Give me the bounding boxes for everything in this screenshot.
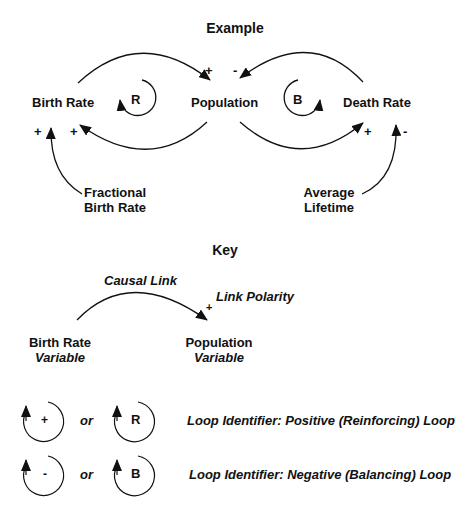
- fractional-line1: Fractional: [80, 185, 150, 200]
- lifetime-line1: Average: [298, 185, 360, 200]
- loop-identifier-minus-symbol: -: [43, 467, 47, 482]
- variable-fractional-birth-rate: Fractional Birth Rate: [80, 185, 150, 215]
- key-link-polarity-label: Link Polarity: [216, 289, 294, 304]
- loop-label-r: R: [131, 92, 140, 107]
- lifetime-line2: Lifetime: [298, 200, 360, 215]
- link-population-to-birth: [80, 122, 207, 149]
- loop-identifier-or-1: or: [80, 413, 93, 428]
- fractional-line2: Birth Rate: [80, 200, 150, 215]
- loop-identifier-positive-description: Loop Identifier: Positive (Reinforcing) …: [187, 413, 455, 428]
- variable-death-rate: Death Rate: [343, 95, 411, 110]
- variable-average-lifetime: Average Lifetime: [298, 185, 360, 215]
- link-population-to-death: [240, 122, 363, 149]
- loop-identifier-r-letter: R: [131, 412, 140, 427]
- loop-identifier-plus-symbol: +: [41, 413, 48, 428]
- loop-identifier-negative-description: Loop Identifier: Negative (Balancing) Lo…: [189, 467, 451, 482]
- variable-population: Population: [191, 95, 258, 110]
- key-var2-name: Population: [184, 335, 254, 350]
- link-birth-to-population: [78, 53, 210, 83]
- key-var1-name: Birth Rate: [25, 335, 95, 350]
- key-title: Key: [205, 243, 245, 258]
- key-causal-link-label: Causal Link: [104, 273, 177, 288]
- link-death-to-population: [240, 52, 363, 82]
- key-var2-type: Variable: [184, 350, 254, 365]
- key-causal-link-arrow: [77, 293, 207, 321]
- polarity-population-to-birth: +: [70, 124, 78, 139]
- key-var1-type: Variable: [25, 350, 95, 365]
- key-variable-population: Population Variable: [184, 335, 254, 365]
- key-variable-birth-rate: Birth Rate Variable: [25, 335, 95, 365]
- variable-birth-rate: Birth Rate: [32, 95, 94, 110]
- example-title: Example: [190, 21, 280, 36]
- loop-identifier-or-2: or: [80, 467, 93, 482]
- loop-identifier-b-letter: B: [131, 466, 140, 481]
- polarity-population-to-death: +: [364, 124, 372, 139]
- key-link-polarity-sign: +: [206, 300, 212, 315]
- polarity-death-to-population: -: [233, 63, 237, 78]
- loop-label-b: B: [293, 92, 302, 107]
- polarity-fractional-to-birth: +: [34, 124, 42, 139]
- polarity-birth-to-population: +: [205, 63, 213, 78]
- polarity-lifetime-to-death: -: [403, 124, 407, 139]
